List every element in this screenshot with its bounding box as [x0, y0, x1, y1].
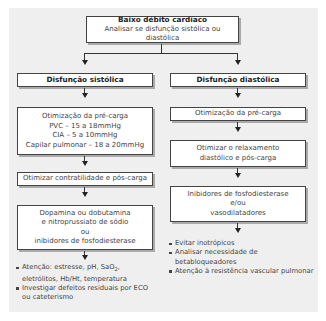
systolic-notes: Atenção: estresse, pH, SaO2, eletrólitos…	[16, 263, 158, 303]
box-systolic-drugs: Dopamina ou dobutamina e nitroprussiato …	[17, 205, 153, 250]
diastolic-notes: Evitar inotrópicos Analisar necessidade …	[169, 239, 314, 276]
list-item: Investigar defeitos residuais por ECO ou…	[16, 284, 158, 303]
text: Otimizar contratilidade e pós-carga	[23, 174, 147, 184]
text: e/ou	[230, 199, 245, 209]
list-item: Atenção à resistência vascular pulmonar	[169, 267, 314, 276]
text: Capilar pulmonar – 18 a 20mmHg	[26, 141, 144, 151]
box-diastolic-drugs: Inibidores de fosfodiesterase e/ou vasod…	[170, 186, 306, 222]
list-item: Atenção: estresse, pH, SaO2, eletrólitos…	[16, 263, 158, 284]
box-contractility: Otimizar contratilidade e pós-carga	[17, 172, 153, 186]
arrow-down-icon	[235, 228, 241, 233]
text: Otimização da pré-carga	[42, 112, 128, 122]
arrow-down-icon	[82, 192, 88, 197]
connector	[237, 53, 238, 60]
box-low-cardiac-output: Baixo débito cardíaco Analisar se disfun…	[86, 16, 239, 43]
text: Dopamina ou dobutamina	[39, 209, 130, 219]
arrow-down-icon	[235, 60, 241, 65]
text: ou	[81, 228, 90, 238]
connector	[84, 53, 238, 54]
text: vasodilatadores	[210, 209, 265, 219]
box-preload-optimization: Otimização da pré-carga PVC – 15 a 18mmH…	[17, 107, 153, 155]
text: inibidores de fosfodiesterase	[35, 237, 136, 247]
box-relaxation: Otimizar o relaxamento diastólico e pós-…	[170, 140, 306, 167]
text: PVC – 15 a 18mmHg	[49, 122, 121, 132]
arrow-down-icon	[82, 60, 88, 65]
text: Inibidores de fosfodiesterase	[187, 190, 288, 200]
systolic-header: Disfunção sistólica	[46, 75, 123, 85]
arrow-down-icon	[82, 255, 88, 260]
list-item: Evitar inotrópicos	[169, 239, 314, 248]
connector	[84, 53, 85, 60]
box-systolic-dysfunction: Disfunção sistólica	[17, 73, 153, 87]
arrow-down-icon	[82, 161, 88, 166]
text: Otimizar o relaxamento diastólico e pós-…	[185, 144, 291, 163]
list-item: Analisar necessidade de betabloqueadores	[169, 248, 270, 267]
subtitle: Analisar se disfunção sistólica ou diast…	[87, 25, 238, 44]
arrow-down-icon	[235, 93, 241, 98]
text: e nitroprussiato de sódio	[42, 218, 129, 228]
text: Otimização da pré-carga	[195, 109, 281, 119]
box-diastolic-dysfunction: Disfunção diastólica	[170, 73, 306, 87]
text: CIA – 5 a 10mmHg	[52, 131, 117, 141]
arrow-down-icon	[82, 93, 88, 98]
box-diastolic-preload: Otimização da pré-carga	[170, 107, 306, 121]
diastolic-header: Disfunção diastólica	[196, 75, 279, 85]
arrow-down-icon	[235, 173, 241, 178]
arrow-down-icon	[235, 127, 241, 132]
title: Baixo débito cardíaco	[118, 15, 207, 25]
